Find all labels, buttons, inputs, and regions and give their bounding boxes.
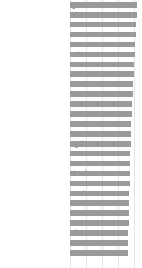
bar-row: Austria	[70, 89, 142, 99]
bar	[70, 101, 132, 107]
bar-row: Switzerland	[70, 50, 142, 60]
bar	[70, 131, 131, 137]
bar	[70, 240, 128, 246]
bar-row: UAE	[70, 238, 142, 248]
bar-rows: Hong KongSingaporeFranceIsraelJapanSwitz…	[70, 0, 142, 268]
bar	[70, 62, 134, 68]
bar	[70, 250, 128, 256]
bar-row: South Korea	[70, 79, 142, 89]
bar	[70, 210, 129, 216]
bar-row: Jordan	[70, 119, 142, 129]
bar-row: Netherlands	[70, 228, 142, 238]
bar-row: Singapore	[70, 10, 142, 20]
bar	[70, 200, 129, 206]
bar	[70, 52, 135, 58]
bar	[70, 171, 130, 177]
bar-row: China	[70, 248, 142, 258]
bar-row: Australia	[70, 99, 142, 109]
bar-row: New Caledonia	[70, 169, 142, 179]
bar	[70, 121, 131, 127]
bar-row: Japan	[70, 40, 142, 50]
bar	[70, 220, 129, 226]
bar	[70, 181, 130, 187]
bar	[70, 161, 130, 167]
bar	[70, 22, 136, 28]
bar	[70, 111, 132, 117]
bar-row: Italy	[70, 218, 142, 228]
bar	[70, 151, 130, 157]
bar	[70, 91, 133, 97]
bar-row: New Zealand	[70, 189, 142, 199]
bar	[70, 230, 128, 236]
bar-row: Hong Kong	[70, 0, 142, 10]
bar-row: France	[70, 20, 142, 30]
bar	[70, 32, 136, 38]
bar-row: Belgium	[70, 208, 142, 218]
bar-row: Denmark	[70, 60, 142, 70]
bar	[70, 71, 134, 77]
bar	[70, 2, 137, 8]
bar-row: Finland	[70, 109, 142, 119]
horizontal-bar-chart: Hong KongSingaporeFranceIsraelJapanSwitz…	[0, 0, 142, 268]
bar-row: Israel	[70, 30, 142, 40]
bar	[70, 191, 129, 197]
bar	[70, 141, 131, 147]
bar-row: United Kingdom	[70, 139, 142, 149]
bar-row: Ireland	[70, 129, 142, 139]
bar-row: Spain	[70, 198, 142, 208]
bar-row: Canada	[70, 179, 142, 189]
bar	[70, 42, 135, 48]
bar-row: Norway	[70, 69, 142, 79]
plot-area: Hong KongSingaporeFranceIsraelJapanSwitz…	[70, 0, 142, 268]
bar-row: Thailand	[70, 149, 142, 159]
bar	[70, 81, 133, 87]
bar	[70, 12, 137, 18]
bar-row: Iceland	[70, 159, 142, 169]
